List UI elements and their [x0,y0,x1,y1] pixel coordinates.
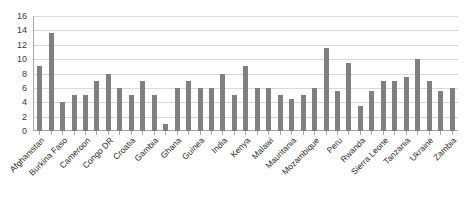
bar[interactable] [72,95,77,131]
bar-slot [389,16,400,131]
bar[interactable] [381,81,386,131]
bar[interactable] [220,74,225,132]
bar-slot [378,16,389,131]
tick-slot [355,131,366,135]
bar[interactable] [415,59,420,131]
bar[interactable] [163,124,168,131]
bar[interactable] [427,81,432,131]
bar[interactable] [243,66,248,131]
bar[interactable] [450,88,455,131]
x-tick [96,131,97,135]
bar-slot [332,16,343,131]
tick-slot [435,131,446,135]
y-tick-label: 16 [17,12,27,21]
x-tick [348,131,349,135]
tick-slot [68,131,79,135]
bar[interactable] [438,91,443,131]
bar-slot [435,16,446,131]
bar-slot [91,16,102,131]
x-tick [119,131,120,135]
bar[interactable] [198,88,203,131]
bar[interactable] [312,88,317,131]
bar[interactable] [60,102,65,131]
bar[interactable] [106,74,111,132]
x-tick [406,131,407,135]
bar[interactable] [369,91,374,131]
tick-slot [309,131,320,135]
bar[interactable] [152,95,157,131]
tick-slot [446,131,457,135]
y-axis: 0246810121416 [0,16,30,131]
y-tick-label: 10 [17,55,27,64]
bar[interactable] [404,77,409,131]
tick-slot [297,131,308,135]
y-tick-label: 8 [22,69,27,78]
tick-slot [286,131,297,135]
bar-slot [252,16,263,131]
bar-slot [68,16,79,131]
bar[interactable] [117,88,122,131]
bar[interactable] [278,95,283,131]
tick-slot [45,131,56,135]
tick-slot [423,131,434,135]
x-tick [200,131,201,135]
bar-slot [126,16,137,131]
bar[interactable] [301,95,306,131]
x-tick [142,131,143,135]
x-tick [268,131,269,135]
tick-slot [206,131,217,135]
bar[interactable] [266,88,271,131]
bar-slot [171,16,182,131]
bar[interactable] [358,106,363,131]
bar-slot [45,16,56,131]
x-tick [51,131,52,135]
bar[interactable] [94,81,99,131]
x-tick-label: Croatia [0,136,138,202]
bar-slot [194,16,205,131]
bar-slot [114,16,125,131]
bar[interactable] [83,95,88,131]
x-axis-labels: AfghanistanBurkina FasoCameroonCongo DRC… [34,136,458,200]
x-tick [257,131,258,135]
tick-slot [401,131,412,135]
bar[interactable] [232,95,237,131]
tick-slot [80,131,91,135]
bar[interactable] [346,63,351,131]
bar[interactable] [335,91,340,131]
bar[interactable] [140,81,145,131]
tick-slot [171,131,182,135]
bar[interactable] [37,66,42,131]
bar[interactable] [129,95,134,131]
x-tick [245,131,246,135]
tick-slot [91,131,102,135]
x-tick [234,131,235,135]
bar[interactable] [175,88,180,131]
bar[interactable] [255,88,260,131]
tick-slot [332,131,343,135]
bar[interactable] [209,88,214,131]
bar[interactable] [324,48,329,131]
x-tick [165,131,166,135]
bar[interactable] [392,81,397,131]
tick-slot [320,131,331,135]
tick-slot [34,131,45,135]
bar-slot [229,16,240,131]
bar-slot [217,16,228,131]
bar[interactable] [49,33,54,131]
tick-slot [217,131,228,135]
bar[interactable] [289,99,294,131]
tick-slot [160,131,171,135]
tick-slot [275,131,286,135]
bar[interactable] [186,81,191,131]
tick-slot [114,131,125,135]
tick-slot [240,131,251,135]
bar-slot [34,16,45,131]
x-tick [440,131,441,135]
tick-slot [366,131,377,135]
tick-slot [412,131,423,135]
x-tick [211,131,212,135]
bar-slot [366,16,377,131]
x-axis-ticks [34,131,458,135]
bar-slot [412,16,423,131]
bar-slot [57,16,68,131]
